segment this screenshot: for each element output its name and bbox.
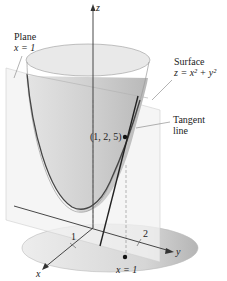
y-axis-label: y: [176, 246, 180, 257]
base-point-marker: [123, 255, 127, 259]
plane-label-line2: x = 1: [14, 42, 35, 53]
z-axis-arrow-icon: [91, 4, 96, 11]
x-axis-label: x: [36, 268, 40, 279]
tangent-label-line2: line: [173, 125, 188, 136]
paraboloid-rim: [26, 44, 150, 76]
x-tick-label: 1: [71, 231, 76, 242]
surface-label-line1: Surface: [174, 56, 205, 67]
y-tick-label: 2: [143, 228, 148, 239]
diagram-canvas: Plane x = 1 Surface z = x² + y² Tangent …: [0, 0, 227, 281]
plane-label-line1: Plane: [14, 31, 36, 42]
surface-leader-line: [152, 80, 172, 100]
point-label: (1, 2, 5): [90, 131, 122, 142]
tangent-label-line1: Tangent: [173, 114, 205, 125]
base-label: x = 1: [116, 264, 137, 275]
tangent-point-marker: [123, 135, 127, 139]
surface-label-line2: z = x² + y²: [174, 67, 216, 78]
z-axis-label: z: [96, 2, 100, 13]
